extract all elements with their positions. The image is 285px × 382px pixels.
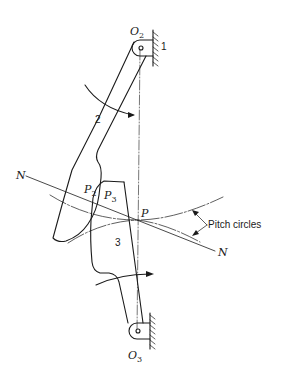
pivot-o3-icon <box>136 329 140 333</box>
label-link-3: 3 <box>115 238 121 248</box>
label-p2-sub: 2 <box>91 189 96 198</box>
label-link-2: 2 <box>95 115 101 125</box>
pitch-leader-upper <box>195 213 207 225</box>
gear-contact-diagram <box>0 0 285 382</box>
pitch-leader-lower-arrow-icon <box>192 230 199 236</box>
label-p3-sub: 3 <box>111 195 116 204</box>
label-n-right: N <box>218 247 228 258</box>
label-o3-base: O <box>128 349 137 362</box>
label-o3-sub: 3 <box>137 355 142 364</box>
arrowhead-2-icon <box>128 112 135 118</box>
ground-hatch-top <box>153 30 158 66</box>
label-p: P <box>141 208 148 219</box>
rotation-arrow-2 <box>85 85 133 115</box>
rotation-arrow-3 <box>96 274 150 285</box>
pitch-leader-upper-arrow-icon <box>192 210 199 216</box>
pitch-circle-2 <box>50 195 223 220</box>
label-pitch-circles: Pitch circles <box>208 220 261 230</box>
ground-hatch-bottom <box>150 313 155 349</box>
label-frame-1: 1 <box>161 42 167 52</box>
pitch-leader-lower <box>196 225 207 233</box>
arrowhead-3-icon <box>146 271 154 277</box>
label-o2: O2 <box>130 26 144 40</box>
pivot-o2-icon <box>139 46 143 50</box>
label-p3: P3 <box>104 190 117 204</box>
label-p2: P2 <box>84 184 97 198</box>
link-3-right-edge <box>124 182 143 323</box>
label-o3: O3 <box>128 350 142 364</box>
label-o2-sub: 2 <box>139 31 144 40</box>
link-2-body <box>53 42 146 242</box>
label-o2-base: O <box>130 25 139 38</box>
label-n-left: N <box>16 170 26 181</box>
